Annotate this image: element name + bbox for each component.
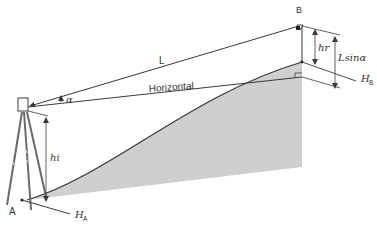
hi-tick-top <box>28 111 48 116</box>
label-height-b: H B <box>360 73 373 86</box>
theodolite-icon <box>18 98 28 111</box>
label-target-height: hr <box>318 42 330 53</box>
label-instrument-height: hi <box>50 152 60 163</box>
height-a-subscript: A <box>83 215 88 222</box>
top-extension-line <box>302 26 340 35</box>
height-b-subscript: B <box>369 79 373 86</box>
label-vertical-component: Lsinα <box>337 52 366 63</box>
label-point-b: B <box>296 5 302 15</box>
label-horizontal: Horizontal <box>148 80 194 94</box>
label-height-a: H A <box>74 209 88 222</box>
label-angle-alpha: α <box>66 94 73 105</box>
label-slope-distance: L <box>159 55 165 66</box>
label-point-a: A <box>9 206 16 217</box>
horizontal-extension-line <box>302 77 340 88</box>
height-a-reference-line <box>22 200 70 214</box>
height-b-reference-line <box>302 62 356 81</box>
trig-leveling-diagram: B L Horizontal α hi hr Lsinα A H A H B <box>0 0 377 226</box>
